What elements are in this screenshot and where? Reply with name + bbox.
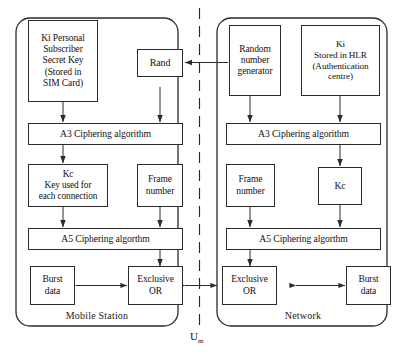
node-a3-ciphering-nw-label: A3 Ciphering algorithm	[227, 128, 380, 139]
node-a5-ciphering-ms-label: A5 Ciphering algorthm	[29, 233, 182, 244]
node-frame-number-ms-label: Framenumber	[138, 174, 182, 196]
node-ki-hlr-label: KiStored in HLR(Authenticationcentre)	[302, 39, 379, 82]
zone-label-network: Network	[228, 310, 378, 321]
node-random-number-generator-label: Randomnumbergenerator	[230, 44, 280, 77]
node-frame-number-nw-label: Framenumber	[227, 174, 274, 196]
node-ki-hlr: KiStored in HLR(Authenticationcentre)	[301, 25, 380, 96]
node-a3-ciphering-nw: A3 Ciphering algorithm	[226, 123, 381, 145]
node-ki-sim-label: Ki PersonalSubscriberSecret Key(Stored i…	[29, 33, 97, 88]
node-frame-number-nw: Framenumber	[226, 164, 275, 207]
node-exclusive-or-ms-label: ExclusiveOR	[129, 274, 182, 296]
node-a5-ciphering-nw: A5 Ciphering algorthm	[226, 228, 381, 250]
node-rand: Rand	[137, 49, 183, 77]
node-exclusive-or-ms: ExclusiveOR	[128, 266, 183, 305]
node-frame-number-ms: Framenumber	[137, 164, 183, 207]
node-kc-nw-label: Kc	[319, 180, 361, 191]
node-a3-ciphering-ms: A3 Ciphering algorithm	[28, 123, 183, 145]
node-rand-label: Rand	[138, 57, 182, 69]
node-random-number-generator: Randomnumbergenerator	[229, 25, 281, 96]
zone-label-mobile-station: Mobile Station	[16, 310, 178, 321]
interface-label-um-base: U	[190, 330, 198, 342]
node-kc-ms: KcKey used foreach connection	[28, 164, 108, 207]
node-exclusive-or-nw: ExclusiveOR	[222, 266, 277, 305]
node-kc-ms-label: KcKey used foreach connection	[29, 169, 107, 201]
node-a5-ciphering-nw-label: A5 Ciphering algorthm	[227, 233, 380, 244]
interface-label-um-subscript: m	[198, 337, 203, 345]
node-a3-ciphering-ms-label: A3 Ciphering algorithm	[29, 128, 182, 139]
interface-label-um: Um	[190, 330, 203, 345]
node-burst-data-nw-label: Burstdata	[347, 274, 390, 296]
diagram-canvas: Ki PersonalSubscriberSecret Key(Stored i…	[0, 0, 403, 359]
node-a5-ciphering-ms: A5 Ciphering algorthm	[28, 228, 183, 250]
node-exclusive-or-nw-label: ExclusiveOR	[223, 274, 276, 296]
node-burst-data-ms: Burstdata	[30, 266, 75, 305]
node-burst-data-ms-label: Burstdata	[31, 274, 74, 296]
node-burst-data-nw: Burstdata	[346, 266, 391, 305]
node-kc-nw: Kc	[318, 167, 362, 205]
node-ki-sim: Ki PersonalSubscriberSecret Key(Stored i…	[28, 20, 98, 102]
